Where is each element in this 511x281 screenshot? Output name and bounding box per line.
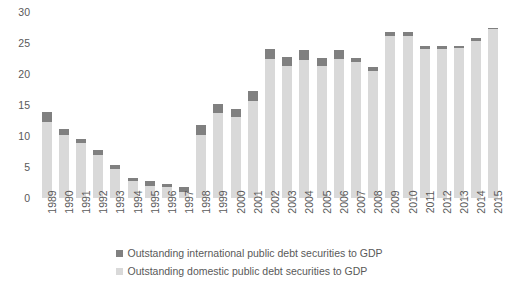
x-axis-slot: 1991 [72, 200, 89, 242]
bar-segment-international [334, 50, 344, 59]
bar-segment-international [248, 91, 258, 102]
x-axis-slot: 2003 [279, 200, 296, 242]
y-axis-tick-label: 10 [18, 131, 30, 142]
bar-segment-domestic [368, 71, 378, 198]
y-axis-tick-label: 0 [24, 193, 30, 204]
x-axis-slot: 2002 [261, 200, 278, 242]
legend-row-domestic: Outstanding domestic public debt securit… [0, 262, 511, 280]
bar-slot [124, 12, 141, 198]
y-axis-tick-label: 25 [18, 38, 30, 49]
bar-segment-international [196, 125, 206, 135]
y-axis-tick-label: 5 [24, 162, 30, 173]
legend-swatch-domestic-icon [116, 268, 123, 275]
bar-segment-domestic [231, 117, 241, 198]
bar-slot [141, 12, 158, 198]
bar-segment-domestic [265, 59, 275, 198]
x-axis-slot: 2004 [296, 200, 313, 242]
bar-slot [176, 12, 193, 198]
x-axis-slot: 2015 [485, 200, 502, 242]
chart-legend: Outstanding international public debt se… [0, 244, 511, 280]
x-axis-slot: 2009 [382, 200, 399, 242]
bar-slot [451, 12, 468, 198]
bar-stack [488, 28, 498, 198]
bar-slot [468, 12, 485, 198]
bar-slot [210, 12, 227, 198]
bar-segment-domestic [213, 113, 223, 198]
bar-stack [368, 67, 378, 198]
bar-slot [296, 12, 313, 198]
x-axis-tick-label: 2015 [493, 190, 504, 213]
bar-stack [351, 58, 361, 198]
bar-slot [365, 12, 382, 198]
bar-slot [261, 12, 278, 198]
x-axis-slot: 1999 [210, 200, 227, 242]
bar-segment-domestic [299, 60, 309, 198]
x-axis-slot: 2001 [244, 200, 261, 242]
bar-stack [231, 109, 241, 198]
x-axis-slot: 2012 [433, 200, 450, 242]
bar-slot [38, 12, 55, 198]
y-axis-tick-label: 20 [18, 69, 30, 80]
y-axis: 051015202530 [0, 12, 36, 198]
bar-slot [382, 12, 399, 198]
bar-stack [42, 112, 52, 198]
bar-segment-international [317, 58, 327, 66]
bar-slot [416, 12, 433, 198]
legend-label-domestic: Outstanding domestic public debt securit… [128, 266, 368, 277]
bar-stack [248, 91, 258, 198]
bar-segment-international [282, 57, 292, 66]
x-axis-slot: 2013 [451, 200, 468, 242]
y-axis-tick-label: 15 [18, 100, 30, 111]
bar-slot [158, 12, 175, 198]
bar-slot [193, 12, 210, 198]
bar-segment-domestic [351, 62, 361, 198]
bar-stack [420, 46, 430, 198]
x-axis-slot: 2007 [347, 200, 364, 242]
bar-slot [244, 12, 261, 198]
x-axis-slot: 2010 [399, 200, 416, 242]
x-axis-slot: 2014 [468, 200, 485, 242]
bar-segment-international [42, 112, 52, 122]
x-axis-slot: 2008 [365, 200, 382, 242]
bar-slot [330, 12, 347, 198]
bar-segment-domestic [471, 41, 481, 198]
bar-stack [299, 50, 309, 198]
legend-swatch-international-icon [116, 250, 123, 257]
bar-series-group [38, 12, 504, 198]
bar-segment-domestic [454, 48, 464, 198]
chart-container: 051015202530 198919901991199219931994199… [0, 0, 511, 281]
x-axis-slot: 1992 [90, 200, 107, 242]
y-axis-tick-label: 30 [18, 7, 30, 18]
x-axis-slot: 1993 [107, 200, 124, 242]
bar-slot [399, 12, 416, 198]
bar-slot [72, 12, 89, 198]
bar-stack [282, 57, 292, 198]
bar-slot [107, 12, 124, 198]
bar-segment-domestic [282, 66, 292, 198]
bar-stack [471, 38, 481, 198]
bar-slot [227, 12, 244, 198]
bar-segment-domestic [334, 59, 344, 198]
bar-segment-international [265, 49, 275, 59]
bar-stack [403, 32, 413, 198]
bar-segment-domestic [403, 36, 413, 198]
legend-row-international: Outstanding international public debt se… [0, 244, 511, 262]
bar-stack [317, 58, 327, 198]
bar-segment-domestic [420, 49, 430, 198]
bar-slot [279, 12, 296, 198]
bar-stack [265, 49, 275, 198]
bar-stack [454, 46, 464, 199]
bar-slot [313, 12, 330, 198]
bar-segment-international [231, 109, 241, 117]
bar-segment-domestic [437, 49, 447, 198]
plot-area [38, 12, 504, 198]
x-axis-slot: 1998 [193, 200, 210, 242]
bar-slot [485, 12, 502, 198]
bar-stack [76, 139, 86, 198]
bar-segment-domestic [42, 122, 52, 198]
x-axis-slot: 1994 [124, 200, 141, 242]
x-axis-slot: 1997 [176, 200, 193, 242]
x-axis-slot: 2006 [330, 200, 347, 242]
bar-segment-domestic [248, 101, 258, 198]
bar-segment-international [213, 104, 223, 113]
